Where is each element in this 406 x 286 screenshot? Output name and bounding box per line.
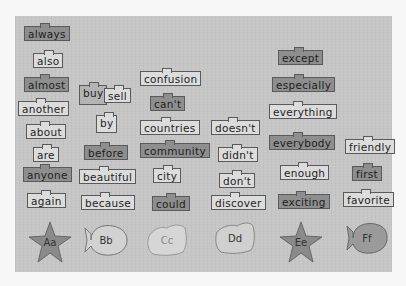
word-card-discover: discover xyxy=(211,195,266,210)
word-card-countries: countries xyxy=(140,120,200,135)
word-card-about: about xyxy=(26,124,66,139)
letter-label-dd: Dd xyxy=(228,233,242,244)
word-card-friendly: friendly xyxy=(345,139,395,154)
word-card-enough: enough xyxy=(280,165,329,180)
word-card-dont: don't xyxy=(219,173,255,188)
letter-star-ee: Ee xyxy=(278,220,324,264)
letter-label-ee: Ee xyxy=(295,237,307,248)
word-card-doesnt: doesn't xyxy=(211,120,260,135)
word-wall-board: always also almost another about are any… xyxy=(15,16,392,272)
letter-label-cc: Cc xyxy=(161,235,173,246)
word-card-almost: almost xyxy=(24,77,69,92)
letter-blob-dd: Dd xyxy=(213,220,257,256)
word-card-could: could xyxy=(152,196,190,211)
letter-label-aa: Aa xyxy=(44,237,57,248)
letter-label-ff: Ff xyxy=(362,233,371,244)
letter-label-bb: Bb xyxy=(99,235,112,246)
word-card-confusion: confusion xyxy=(140,71,201,86)
letter-blob-cc: Cc xyxy=(145,222,189,258)
word-card-everything: everything xyxy=(269,104,337,119)
word-card-sell: sell xyxy=(104,88,131,103)
word-card-everybody: everybody xyxy=(269,135,335,150)
word-card-favorite: favorite xyxy=(343,192,394,207)
letter-star-aa: Aa xyxy=(27,220,73,264)
word-card-city: city xyxy=(153,168,181,183)
word-card-are: are xyxy=(33,147,59,162)
word-card-by: by xyxy=(96,115,117,133)
letter-fish-bb: Bb xyxy=(83,222,129,258)
letter-fish-ff: Ff xyxy=(345,220,389,256)
word-card-cant: can't xyxy=(150,96,185,111)
word-card-again: again xyxy=(27,193,66,208)
word-card-also: also xyxy=(33,53,63,68)
word-card-always: always xyxy=(24,26,70,41)
word-card-community: community xyxy=(140,143,210,158)
word-card-anyone: anyone xyxy=(23,167,72,182)
word-card-beautiful: beautiful xyxy=(79,169,136,184)
word-card-because: because xyxy=(81,195,135,210)
word-card-didnt: didn't xyxy=(218,147,258,162)
word-card-except: except xyxy=(278,50,323,65)
word-card-before: before xyxy=(84,145,128,160)
word-card-another: another xyxy=(18,101,69,116)
word-card-first: first xyxy=(352,166,382,181)
word-card-especially: especially xyxy=(272,77,335,92)
word-card-exciting: exciting xyxy=(278,194,330,209)
